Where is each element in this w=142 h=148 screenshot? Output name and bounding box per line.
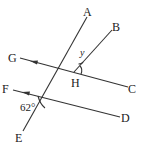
point-label-f: F [2,82,9,96]
angle-y-arc [79,62,84,64]
point-label-a: A [83,5,92,19]
point-label-e: E [15,131,22,145]
angle-label-y: y [79,47,85,58]
geometry-diagram: A B G H C F D E y 62° [0,0,142,148]
point-label-c: C [128,82,136,96]
point-label-g: G [8,51,17,65]
parallel-arrow-icon [30,61,38,65]
point-label-d: D [121,111,130,125]
parallel-arrow-icon [22,92,30,96]
point-label-h: H [71,76,80,90]
line-ae [23,17,87,131]
angle-h-arc [80,66,82,74]
point-label-b: B [112,20,120,34]
angle-label-62: 62° [20,101,35,113]
